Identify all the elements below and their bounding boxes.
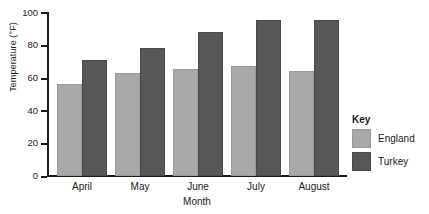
y-axis-tick xyxy=(41,78,47,80)
bar-group xyxy=(231,12,281,176)
legend-swatch-turkey xyxy=(352,152,371,171)
bar-turkey-may xyxy=(140,48,165,176)
legend-title: Key xyxy=(352,114,415,125)
bar-england-july xyxy=(231,66,256,176)
bar-england-august xyxy=(289,71,314,176)
y-axis-tick xyxy=(41,143,47,145)
plot-area xyxy=(49,12,347,176)
y-axis-tick xyxy=(41,110,47,112)
bar-group xyxy=(173,12,223,176)
bar-turkey-june xyxy=(198,32,223,176)
legend-item-turkey: Turkey xyxy=(352,152,415,171)
bar-england-april xyxy=(57,84,82,176)
bar-group xyxy=(57,12,107,176)
legend-item-england: England xyxy=(352,129,415,148)
bar-chart: Temperature (°F) 0 20 40 60 80 100 xyxy=(0,0,429,214)
y-axis-tick-label: 100 xyxy=(8,8,38,18)
bar-turkey-july xyxy=(256,20,281,176)
y-axis-tick xyxy=(41,12,47,14)
bar-group xyxy=(115,12,165,176)
y-axis-tick xyxy=(41,45,47,47)
y-axis-tick-label: 80 xyxy=(8,40,38,50)
y-axis-tick-label: 20 xyxy=(8,138,38,148)
x-axis-title: Month xyxy=(147,196,247,207)
y-axis-title: Temperature (°F) xyxy=(8,0,18,117)
bar-england-june xyxy=(173,69,198,176)
bar-turkey-april xyxy=(82,60,107,176)
legend-swatch-england xyxy=(352,129,371,148)
bar-england-may xyxy=(115,73,140,176)
bar-group xyxy=(289,12,339,176)
legend: Key England Turkey xyxy=(352,114,415,175)
y-axis-tick-label: 40 xyxy=(8,106,38,116)
legend-label-england: England xyxy=(378,133,415,144)
bar-turkey-august xyxy=(314,20,339,176)
y-axis-tick-label: 60 xyxy=(8,73,38,83)
y-axis-tick-label: 0 xyxy=(8,171,38,181)
y-axis-tick xyxy=(41,176,47,178)
x-axis-tick-label-august: August xyxy=(279,181,349,192)
legend-label-turkey: Turkey xyxy=(378,156,408,167)
